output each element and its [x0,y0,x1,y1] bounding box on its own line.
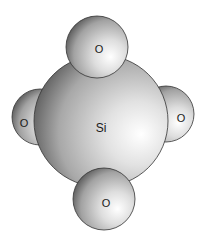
label-o-bottom: O [102,197,111,209]
sio4-tetrahedron-diagram: O O O O Si [0,0,203,240]
label-o-top: O [95,43,104,55]
label-si: Si [96,121,107,135]
label-o-right: O [177,112,186,124]
label-o-left: O [20,117,29,129]
